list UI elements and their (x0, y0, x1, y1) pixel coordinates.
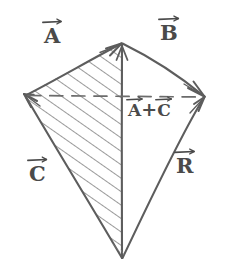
hatched-region (25, 43, 122, 258)
diagram-canvas: A B C (0, 0, 228, 275)
vector-b-line (123, 44, 205, 97)
label-ac-first-text: A (128, 100, 141, 120)
label-vector-c-text: C (29, 161, 46, 186)
label-ac-operator: + (141, 100, 157, 119)
label-vector-r-text: R (176, 153, 193, 178)
label-vector-a-plus-c: A + C (128, 100, 171, 119)
label-vector-c: C (29, 163, 46, 184)
label-vector-r: R (176, 155, 193, 176)
label-vector-b: B (160, 22, 178, 43)
label-vector-a-text: A (44, 23, 60, 48)
label-vector-a: A (44, 25, 60, 46)
vector-diagram-svg (0, 0, 228, 275)
label-vector-b-text: B (160, 20, 178, 45)
label-ac-second-text: C (157, 100, 171, 120)
